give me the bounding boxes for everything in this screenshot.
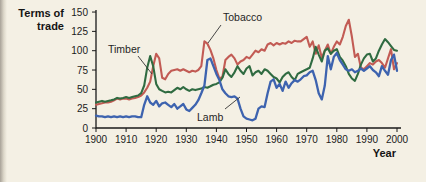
x-tick-label: 1960 bbox=[265, 134, 288, 145]
x-tick-label: 1910 bbox=[115, 134, 138, 145]
x-tick-label: 1920 bbox=[145, 134, 168, 145]
y-tick-label: 100 bbox=[71, 45, 88, 56]
x-tick-label: 1990 bbox=[356, 134, 379, 145]
page: Terms of trade 0255075100125150190019101… bbox=[0, 0, 426, 182]
y-tick-label: 125 bbox=[71, 26, 88, 37]
y-tick-label: 25 bbox=[77, 103, 89, 114]
x-tick-label: 1950 bbox=[235, 134, 258, 145]
x-tick-label: 2000 bbox=[386, 134, 409, 145]
x-tick-label: 1930 bbox=[175, 134, 198, 145]
y-tick-label: 50 bbox=[77, 84, 89, 95]
series-label-tobacco: Tobacco bbox=[223, 11, 262, 23]
series-label-lamb: Lamb bbox=[197, 111, 223, 123]
x-tick-label: 1900 bbox=[85, 134, 108, 145]
y-tick-label: 75 bbox=[77, 65, 89, 76]
x-axis-title: Year bbox=[373, 147, 396, 159]
y-tick-label: 0 bbox=[82, 123, 88, 134]
series-line-lamb bbox=[96, 53, 397, 120]
x-tick-label: 1940 bbox=[205, 134, 228, 145]
label-leader-tobacco bbox=[208, 25, 221, 43]
x-tick-label: 1970 bbox=[296, 134, 319, 145]
series-label-timber: Timber bbox=[108, 43, 141, 55]
y-tick-label: 150 bbox=[71, 7, 88, 18]
x-tick-label: 1980 bbox=[326, 134, 349, 145]
terms-of-trade-line-chart: 0255075100125150190019101920193019401950… bbox=[0, 0, 426, 182]
